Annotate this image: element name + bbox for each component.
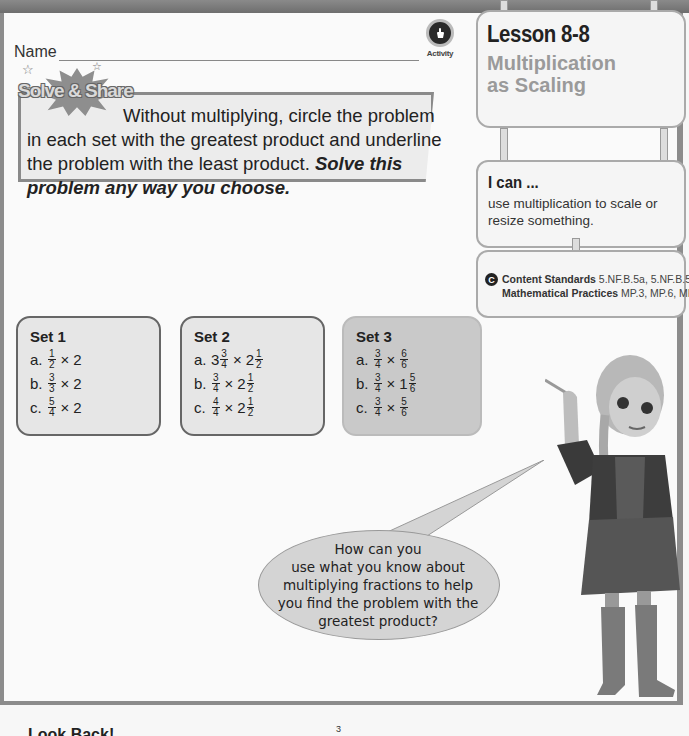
prompt-text: Without multiplying, circle the problem … bbox=[27, 104, 447, 200]
set-title: Set 3 bbox=[356, 328, 480, 345]
content-standards-value: 5.NF.B.5a, 5.NF.B.5b bbox=[599, 273, 689, 285]
set-1-box: Set 1 a.12×2 b.33×2 c.54×2 bbox=[16, 316, 161, 436]
common-core-icon: C bbox=[485, 273, 498, 286]
problem-item[interactable]: c.44×212 bbox=[194, 395, 323, 419]
name-row: Name bbox=[14, 43, 419, 61]
problem-item[interactable]: c.54×2 bbox=[30, 395, 159, 419]
sign-post bbox=[500, 128, 508, 162]
footer-superscript: 3 bbox=[336, 724, 341, 734]
problem-item[interactable]: b.34×212 bbox=[194, 371, 323, 395]
prompt-line1: Without multiplying, circle the problem bbox=[123, 105, 435, 126]
mathematical-practices-value: MP.3, MP.6, MP.7 bbox=[621, 287, 689, 299]
sign-post bbox=[660, 128, 668, 162]
name-input-line[interactable] bbox=[59, 46, 419, 61]
solve-share-badge: Solve & Share bbox=[18, 80, 133, 102]
lesson-title-line2: as Scaling bbox=[487, 74, 616, 96]
look-back-heading: Look Back! bbox=[28, 726, 114, 736]
content-standards: Content Standards 5.NF.B.5a, 5.NF.B.5b bbox=[502, 273, 689, 285]
name-label: Name bbox=[14, 43, 57, 61]
activity-label: Activity bbox=[423, 49, 457, 58]
problem-item[interactable]: b.34×156 bbox=[356, 371, 480, 395]
speech-bubble-text: How can you use what you know about mult… bbox=[268, 540, 488, 630]
student-character-illustration bbox=[545, 345, 680, 700]
star-icon: ☆ bbox=[22, 62, 34, 77]
hand-pointer-icon bbox=[426, 19, 454, 47]
problem-item[interactable]: a.12×2 bbox=[30, 347, 159, 371]
lesson-number: Lesson 8-8 bbox=[487, 20, 589, 48]
set-title: Set 2 bbox=[194, 328, 323, 345]
set-title: Set 1 bbox=[30, 328, 159, 345]
problem-item[interactable]: c.34×56 bbox=[356, 395, 480, 419]
fraction: 12 bbox=[48, 349, 56, 370]
i-can-title: I can ... bbox=[488, 173, 539, 193]
problem-item[interactable]: a.34×66 bbox=[356, 347, 480, 371]
fraction: 54 bbox=[48, 397, 56, 418]
fraction: 33 bbox=[48, 373, 56, 394]
activity-button[interactable]: Activity bbox=[423, 19, 457, 58]
problem-item[interactable]: b.33×2 bbox=[30, 371, 159, 395]
lesson-title-line1: Multiplication bbox=[487, 52, 616, 74]
lesson-title: Multiplication as Scaling bbox=[487, 52, 616, 96]
mathematical-practices-label: Mathematical Practices bbox=[502, 287, 618, 299]
problem-item[interactable]: a.334×212 bbox=[194, 347, 323, 371]
i-can-text: use multiplication to scale or resize so… bbox=[488, 195, 684, 229]
mathematical-practices: Mathematical Practices MP.3, MP.6, MP.7 bbox=[502, 287, 689, 299]
content-standards-label: Content Standards bbox=[502, 273, 596, 285]
set-3-box: Set 3 a.34×66 b.34×156 c.34×56 bbox=[342, 316, 482, 436]
set-2-box: Set 2 a.334×212 b.34×212 c.44×212 bbox=[180, 316, 325, 436]
